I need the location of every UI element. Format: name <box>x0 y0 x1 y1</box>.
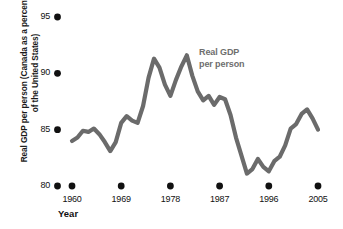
x-axis-tick-label: 1969 <box>104 194 138 204</box>
y-axis-title: Real GDP per person (Canada as a percent… <box>15 0 45 166</box>
x-axis-tick-dot <box>167 183 174 190</box>
y-axis-tick-label: 90 <box>30 67 50 77</box>
y-axis-tick-label: 95 <box>30 11 50 21</box>
x-axis-tick-dot <box>118 183 125 190</box>
x-axis-title: Year <box>58 208 78 219</box>
series-annotation-line-2: per person <box>199 59 245 71</box>
y-axis-tick-dot <box>54 126 61 133</box>
x-axis-tick-markers <box>69 183 322 190</box>
y-axis-tick-label: 85 <box>30 124 50 134</box>
chart-figure: Real GDP per person (Canada as a percent… <box>0 0 343 229</box>
y-axis-tick-dot <box>54 183 61 190</box>
y-axis-tick-label: 80 <box>30 180 50 190</box>
x-axis-tick-dot <box>265 183 272 190</box>
series-line-real-gdp-per-person <box>72 55 318 173</box>
x-axis-tick-dot <box>69 183 76 190</box>
y-axis-title-text: Real GDP per person (Canada as a percent… <box>19 0 41 166</box>
y-axis-tick-dot <box>54 14 61 21</box>
x-axis-tick-label: 1996 <box>252 194 286 204</box>
y-axis-tick-markers <box>54 14 61 190</box>
x-axis-tick-label: 1960 <box>55 194 89 204</box>
x-axis-tick-label: 1987 <box>203 194 237 204</box>
x-axis-tick-label: 1978 <box>153 194 187 204</box>
series-annotation: Real GDP per person <box>199 47 245 70</box>
x-axis-tick-dot <box>315 183 322 190</box>
x-axis-tick-dot <box>216 183 223 190</box>
x-axis-tick-label: 2005 <box>301 194 335 204</box>
series-annotation-line-1: Real GDP <box>199 47 245 59</box>
y-axis-tick-dot <box>54 70 61 77</box>
